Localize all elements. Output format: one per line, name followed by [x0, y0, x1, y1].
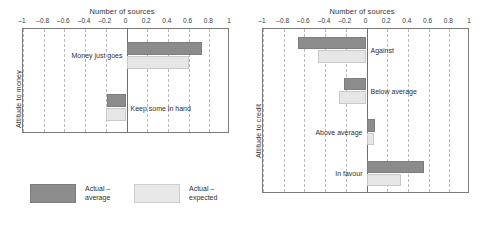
legend: Actual – average Actual – expected [0, 0, 482, 229]
figure-two-bar-charts: Number of sources –1–0.8–0.6–0.4–0.200.2… [0, 0, 482, 229]
legend-label-line1: Actual – [85, 185, 110, 192]
legend-swatch-light [134, 184, 180, 203]
legend-label-line1: Actual – [189, 185, 214, 192]
legend-label-line2: average [85, 194, 110, 201]
legend-item-actual-expected: Actual – expected [134, 184, 217, 203]
legend-item-actual-average: Actual – average [30, 184, 110, 203]
legend-label-line2: expected [189, 194, 217, 201]
legend-swatch-dark [30, 184, 76, 203]
legend-label-actual-expected: Actual – expected [189, 185, 217, 202]
legend-label-actual-average: Actual – average [85, 185, 110, 202]
